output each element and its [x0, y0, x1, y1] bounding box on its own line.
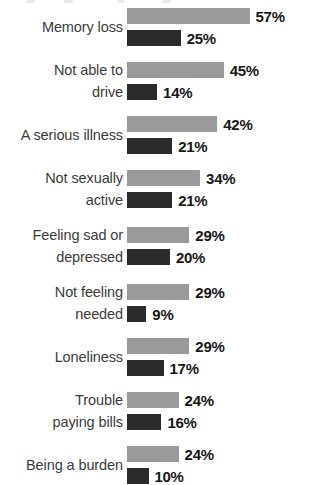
bar-dark	[127, 306, 146, 322]
bar-dark	[127, 414, 161, 430]
bar-value-label: 57%	[256, 8, 285, 25]
bar-group: Being a burden24%10%	[0, 446, 313, 484]
bar-dark	[127, 192, 172, 208]
bar-light	[127, 284, 189, 300]
category-label: Not able to drive	[0, 59, 127, 103]
bar-row: 17%	[127, 360, 313, 376]
bar-row: 29%	[127, 284, 313, 300]
bar-group: Not able to drive45%14%	[0, 59, 313, 103]
bar-light	[127, 170, 200, 186]
category-label: Loneliness	[0, 346, 127, 368]
bar-row: 29%	[127, 227, 313, 243]
bar-pair: 42%21%	[127, 116, 313, 154]
bar-pair: 34%21%	[127, 170, 313, 208]
bar-row: 20%	[127, 249, 313, 265]
bar-value-label: 17%	[170, 360, 199, 377]
bar-row: 9%	[127, 306, 313, 322]
bar-group: Not feeling needed29%9%	[0, 281, 313, 325]
bar-pair: 24%10%	[127, 446, 313, 484]
bar-value-label: 9%	[152, 306, 173, 323]
bar-value-label: 45%	[230, 62, 259, 79]
cropped-title-remnant	[22, 0, 202, 4]
bar-dark	[127, 468, 149, 484]
category-label: Not feeling needed	[0, 281, 127, 325]
bar-row: 10%	[127, 468, 313, 484]
bar-dark	[127, 84, 157, 100]
bar-value-label: 24%	[185, 446, 214, 463]
bar-value-label: 10%	[155, 468, 184, 485]
chart-groups: Memory loss57%25%Not able to drive45%14%…	[0, 8, 313, 484]
bar-row: 25%	[127, 30, 313, 46]
bar-pair: 29%9%	[127, 284, 313, 322]
bar-dark	[127, 30, 181, 46]
category-label: Being a burden	[0, 454, 127, 476]
bar-value-label: 25%	[187, 30, 216, 47]
bar-value-label: 29%	[195, 284, 224, 301]
bar-light	[127, 116, 217, 132]
bar-light	[127, 446, 179, 462]
bar-light	[127, 338, 189, 354]
bar-row: 21%	[127, 192, 313, 208]
bar-light	[127, 8, 250, 24]
bar-row: 42%	[127, 116, 313, 132]
bar-row: 16%	[127, 414, 313, 430]
bar-group: Memory loss57%25%	[0, 8, 313, 46]
bar-value-label: 14%	[163, 84, 192, 101]
bar-dark	[127, 249, 170, 265]
bar-pair: 29%20%	[127, 227, 313, 265]
bar-pair: 57%25%	[127, 8, 313, 46]
bar-group: Loneliness29%17%	[0, 338, 313, 376]
category-label: A serious illness	[0, 124, 127, 146]
bar-dark	[127, 138, 172, 154]
bar-row: 24%	[127, 446, 313, 462]
bar-row: 57%	[127, 8, 313, 24]
bar-light	[127, 392, 179, 408]
bar-pair: 29%17%	[127, 338, 313, 376]
bar-row: 34%	[127, 170, 313, 186]
bar-value-label: 34%	[206, 170, 235, 187]
category-label: Memory loss	[0, 16, 127, 38]
bar-value-label: 42%	[223, 116, 252, 133]
bar-dark	[127, 360, 164, 376]
bar-value-label: 24%	[185, 392, 214, 409]
category-label: Trouble paying bills	[0, 389, 127, 433]
category-label: Feeling sad or depressed	[0, 224, 127, 268]
bar-row: 45%	[127, 62, 313, 78]
bar-light	[127, 227, 189, 243]
bar-value-label: 16%	[167, 414, 196, 431]
bar-value-label: 21%	[178, 138, 207, 155]
bar-row: 21%	[127, 138, 313, 154]
bar-group: Trouble paying bills24%16%	[0, 389, 313, 433]
bar-group: Feeling sad or depressed29%20%	[0, 224, 313, 268]
bar-value-label: 20%	[176, 249, 205, 266]
bar-group: A serious illness42%21%	[0, 116, 313, 154]
bar-row: 29%	[127, 338, 313, 354]
bar-pair: 45%14%	[127, 62, 313, 100]
bar-row: 24%	[127, 392, 313, 408]
bar-group: Not sexually active34%21%	[0, 167, 313, 211]
bar-value-label: 29%	[195, 338, 224, 355]
bar-light	[127, 62, 224, 78]
bar-pair: 24%16%	[127, 392, 313, 430]
bar-row: 14%	[127, 84, 313, 100]
bar-value-label: 21%	[178, 192, 207, 209]
category-label: Not sexually active	[0, 167, 127, 211]
bar-value-label: 29%	[195, 227, 224, 244]
